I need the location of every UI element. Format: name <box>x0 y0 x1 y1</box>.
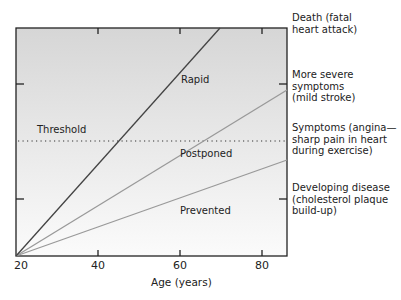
prevented-label: Prevented <box>180 205 231 216</box>
x-tick-80: 80 <box>255 259 269 272</box>
x-tick-20: 20 <box>14 259 28 272</box>
annotation-severe: More severe symptoms (mild stroke) <box>292 69 401 104</box>
annotation-symptoms: Symptoms (angina— sharp pain in heart du… <box>292 122 396 157</box>
rapid-label: Rapid <box>181 74 209 85</box>
annotation-death: Death (fatal heart attack) <box>292 12 357 35</box>
annotation-developing: Developing disease (cholesterol plaque b… <box>292 182 390 217</box>
x-axis-label: Age (years) <box>151 276 212 288</box>
x-tick-40: 40 <box>91 259 105 272</box>
postponed-label: Postponed <box>180 148 232 159</box>
plot-area <box>16 28 287 256</box>
threshold-label: Threshold <box>37 124 86 135</box>
x-tick-60: 60 <box>173 259 187 272</box>
